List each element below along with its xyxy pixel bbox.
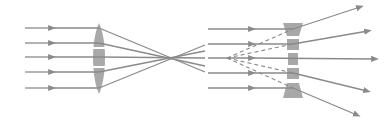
diverging-lens [283, 23, 303, 98]
converging-lens [89, 23, 109, 94]
lens-diagram [0, 0, 392, 126]
converging-rays [25, 28, 205, 88]
optics-diagram-svg [0, 0, 392, 126]
